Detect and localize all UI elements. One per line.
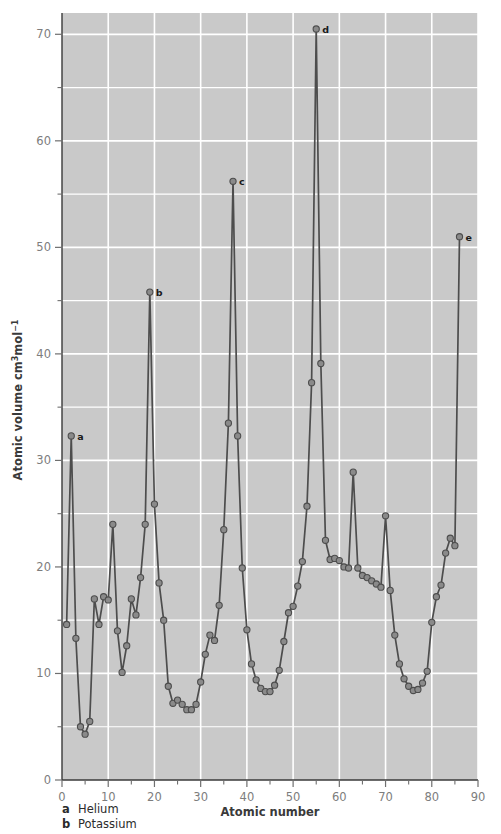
data-point-marker <box>267 688 273 694</box>
chart-legend: a Helium b Potassium <box>62 802 137 832</box>
point-label-a: a <box>77 431 83 442</box>
plot-background-group <box>62 13 478 780</box>
data-point-marker <box>87 718 93 724</box>
data-point-marker <box>401 676 407 682</box>
point-label-c: c <box>239 176 245 187</box>
data-point-marker <box>318 360 324 366</box>
legend-item: a Helium <box>62 802 137 817</box>
data-point-marker <box>198 679 204 685</box>
y-axis-title-group: Atomic volume cm3mol−1 <box>11 319 26 480</box>
data-point-marker <box>179 701 185 707</box>
point-label-e: e <box>466 232 472 243</box>
y-tick-label: 30 <box>36 453 51 467</box>
data-point-marker <box>336 557 342 563</box>
y-axis-ticks <box>55 34 62 780</box>
data-point-marker <box>239 565 245 571</box>
data-point-marker <box>147 289 153 295</box>
data-point-marker <box>313 26 319 32</box>
data-point-marker <box>225 420 231 426</box>
x-tick-label: 90 <box>471 790 486 804</box>
data-point-marker <box>156 580 162 586</box>
data-point-marker <box>350 469 356 475</box>
data-point-marker <box>415 686 421 692</box>
data-point-marker <box>290 603 296 609</box>
data-point-marker <box>105 597 111 603</box>
legend-key: b <box>62 817 71 832</box>
data-point-marker <box>216 602 222 608</box>
data-point-marker <box>447 535 453 541</box>
data-point-marker <box>276 667 282 673</box>
legend-item: b Potassium <box>62 817 137 832</box>
data-point-marker <box>91 596 97 602</box>
data-point-marker <box>193 701 199 707</box>
data-point-marker <box>378 584 384 590</box>
legend-label: Helium <box>78 802 119 817</box>
data-point-marker <box>211 637 217 643</box>
data-point-marker <box>137 575 143 581</box>
data-point-marker <box>355 565 361 571</box>
data-point-marker <box>419 680 425 686</box>
x-tick-label: 80 <box>424 790 439 804</box>
data-point-marker <box>235 433 241 439</box>
data-point-marker <box>64 621 70 627</box>
data-point-marker <box>281 638 287 644</box>
data-point-marker <box>161 617 167 623</box>
data-point-marker <box>429 619 435 625</box>
data-point-marker <box>443 550 449 556</box>
data-point-marker <box>295 583 301 589</box>
x-tick-label: 60 <box>332 790 347 804</box>
data-point-marker <box>387 587 393 593</box>
data-point-marker <box>202 651 208 657</box>
x-tick-label: 30 <box>193 790 208 804</box>
data-point-marker <box>110 521 116 527</box>
data-point-marker <box>114 628 120 634</box>
data-point-marker <box>128 596 134 602</box>
y-tick-label: 70 <box>36 27 51 41</box>
y-axis-title: Atomic volume cm3mol−1 <box>11 319 26 480</box>
data-point-marker <box>124 643 130 649</box>
data-point-marker <box>119 669 125 675</box>
x-tick-label: 70 <box>378 790 393 804</box>
y-tick-label: 0 <box>44 773 51 787</box>
figure: abcde 0102030405060708090 01020304050607… <box>0 0 501 834</box>
data-point-marker <box>309 380 315 386</box>
data-point-marker <box>248 661 254 667</box>
legend-key: a <box>62 802 71 817</box>
y-tick-label: 50 <box>36 240 51 254</box>
data-point-marker <box>68 433 74 439</box>
data-point-marker <box>424 668 430 674</box>
data-point-marker <box>151 501 157 507</box>
y-tick-label: 60 <box>36 134 51 148</box>
data-point-marker <box>304 503 310 509</box>
data-point-marker <box>73 635 79 641</box>
data-point-marker <box>382 513 388 519</box>
x-tick-label: 20 <box>147 790 162 804</box>
point-label-d: d <box>322 24 329 35</box>
data-point-marker <box>396 661 402 667</box>
y-axis-title-mid: mol <box>11 332 25 356</box>
data-point-marker <box>244 627 250 633</box>
data-point-marker <box>322 537 328 543</box>
data-point-marker <box>188 707 194 713</box>
data-point-marker <box>392 632 398 638</box>
y-tick-label: 20 <box>36 560 51 574</box>
x-tick-label: 40 <box>240 790 255 804</box>
y-tick-label: 40 <box>36 347 51 361</box>
data-point-marker <box>438 582 444 588</box>
data-point-marker <box>142 521 148 527</box>
point-label-b: b <box>156 287 163 298</box>
x-axis-title: Atomic number <box>220 805 319 819</box>
data-point-marker <box>285 610 291 616</box>
data-point-marker <box>253 677 259 683</box>
x-axis-ticks <box>62 780 478 787</box>
data-point-marker <box>207 632 213 638</box>
data-point-marker <box>221 527 227 533</box>
x-tick-label: 50 <box>286 790 301 804</box>
data-point-marker <box>133 612 139 618</box>
data-point-marker <box>456 234 462 240</box>
data-point-marker <box>452 543 458 549</box>
data-point-marker <box>433 594 439 600</box>
data-point-marker <box>345 565 351 571</box>
data-point-marker <box>96 621 102 627</box>
y-axis-title-main: Atomic volume cm <box>11 361 25 480</box>
